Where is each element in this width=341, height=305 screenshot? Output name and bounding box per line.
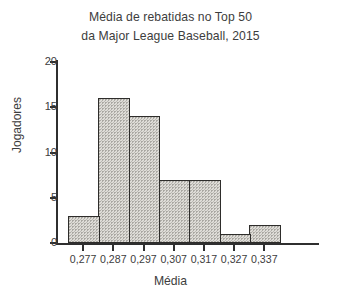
- histogram-bar: [128, 116, 160, 243]
- histogram-bar: [98, 98, 130, 243]
- histogram-bar: [249, 225, 281, 243]
- histogram-bar: [68, 216, 100, 243]
- bars-group: [0, 0, 341, 305]
- histogram-bar: [219, 234, 251, 243]
- histogram-bar: [189, 180, 221, 243]
- histogram-bar: [159, 180, 191, 243]
- histogram-chart: Média de rebatidas no Top 50 da Major Le…: [0, 0, 341, 305]
